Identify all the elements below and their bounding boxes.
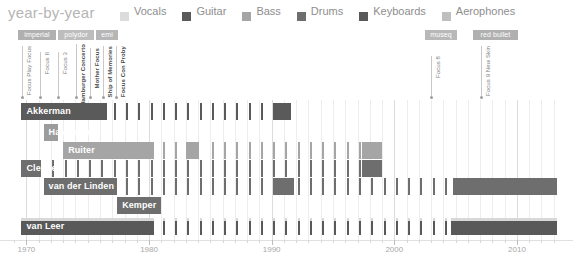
timeline-vocals-stripe (285, 218, 287, 221)
axis-tick (100, 240, 101, 243)
axis-tick (492, 240, 493, 243)
axis-tick-label: 1970 (17, 245, 35, 254)
timeline-vocals-stripe (420, 218, 422, 221)
timeline-tick (322, 142, 324, 159)
axis-tick (198, 240, 199, 243)
timeline-tick (261, 103, 263, 120)
timeline-tick (298, 160, 300, 177)
axis-tick (505, 240, 506, 243)
axis-tick (456, 240, 457, 243)
timeline-tick (175, 103, 177, 120)
axis-tick (419, 240, 420, 243)
legend-aerophones[interactable]: Aerophones (442, 6, 515, 24)
member-name-label: Ruiter (63, 142, 100, 159)
legend-swatch-icon (442, 12, 451, 21)
timeline-tick (187, 178, 189, 195)
album-marker-dot (102, 96, 105, 99)
timeline-tick (347, 160, 349, 177)
timeline-tick (77, 160, 79, 177)
legend-vocals[interactable]: Vocals (120, 6, 166, 24)
axis-tick (39, 240, 40, 243)
axis-tick (88, 240, 89, 243)
timeline-tick (187, 160, 189, 177)
timeline-tick (151, 160, 153, 177)
timeline-tick (334, 160, 336, 177)
timeline-vocals-stripe (249, 218, 251, 221)
timeline-row[interactable]: Cleuver (0, 160, 573, 177)
timeline-tick (420, 178, 422, 195)
timeline-tick (138, 160, 140, 177)
album-label: Focus 8 (435, 56, 441, 78)
axis-tick (358, 240, 359, 243)
record-label-badge: museq (425, 30, 457, 40)
axis-tick (529, 240, 530, 243)
axis-tick-label: 2000 (385, 245, 403, 254)
album-label: Hamburger Concerto (80, 44, 86, 106)
axis-tick (210, 240, 211, 243)
axis-tick (554, 240, 555, 243)
legend-label: Guitar (196, 6, 226, 16)
timeline-tick (101, 160, 103, 177)
legend-bass[interactable]: Bass (242, 6, 280, 24)
record-label-badge: imperial (18, 30, 56, 40)
timeline-row[interactable]: Kemper (0, 197, 573, 214)
legend-label: Bass (256, 6, 280, 16)
album-marker-dot (39, 96, 42, 99)
timeline-tick (285, 160, 287, 177)
axis-tick (296, 240, 297, 243)
timeline-bar-segment (186, 142, 199, 159)
timeline-row[interactable]: Ruiter (0, 142, 573, 159)
timeline-tick (249, 142, 251, 159)
timeline-tick (163, 178, 165, 195)
axis-tick (333, 240, 334, 243)
legend-guitar[interactable]: Guitar (182, 6, 226, 24)
timeline-vocals-stripe (236, 218, 238, 221)
axis-tick (235, 240, 236, 243)
timeline-row[interactable]: van Leer (0, 218, 573, 235)
album-marker-dot (75, 96, 78, 99)
axis-tick (14, 240, 15, 243)
timeline-tick (273, 160, 275, 177)
axis-tick (259, 240, 260, 243)
album-label: Focus Con Proby (120, 46, 126, 97)
axis-tick-label: 2010 (508, 245, 526, 254)
legend-label: Vocals (134, 6, 166, 16)
timeline-tick (175, 178, 177, 195)
timeline-vocals-stripe (163, 218, 165, 221)
timeline-tick (408, 178, 410, 195)
timeline-tick (273, 142, 275, 159)
axis-tick (247, 240, 248, 243)
timeline-tick (396, 178, 398, 195)
timeline-vocals-stripe (310, 218, 312, 221)
legend-keyboards[interactable]: Keyboards (359, 6, 426, 24)
album-marker-line (90, 48, 91, 98)
axis-tick (480, 240, 481, 243)
timeline-row[interactable]: Havermans (0, 124, 573, 141)
album-marker-line (58, 52, 59, 98)
legend-label: Keyboards (373, 6, 426, 16)
axis-tick (370, 240, 371, 243)
record-label-badge: red bullet (473, 30, 518, 40)
timeline-tick (163, 160, 165, 177)
timeline-vocals-stripe (224, 218, 226, 221)
timeline-vocals-stripe (371, 218, 373, 221)
album-marker-line (76, 44, 77, 98)
axis-tick (443, 240, 444, 243)
timeline-tick (236, 142, 238, 159)
axis-tick (284, 240, 285, 243)
timeline-tick (249, 103, 251, 120)
timeline-row[interactable]: van der Linden (0, 178, 573, 195)
chart-header: year-by-year VocalsGuitarBassDrumsKeyboa… (0, 0, 573, 26)
album-marker-dot (21, 96, 24, 99)
timeline-vocals-stripe (359, 218, 361, 221)
axis-tick (345, 240, 346, 243)
timeline-row[interactable]: Akkerman (0, 103, 573, 120)
legend-drums[interactable]: Drums (297, 6, 343, 24)
timeline-bar-segment (362, 160, 382, 177)
timeline-tick (261, 160, 263, 177)
record-label-badge: polydor (58, 30, 94, 40)
timeline-tick (249, 178, 251, 195)
album-marker-line (22, 46, 23, 98)
album-marker-line (116, 46, 117, 98)
member-name-label: van der Linden (44, 178, 119, 195)
